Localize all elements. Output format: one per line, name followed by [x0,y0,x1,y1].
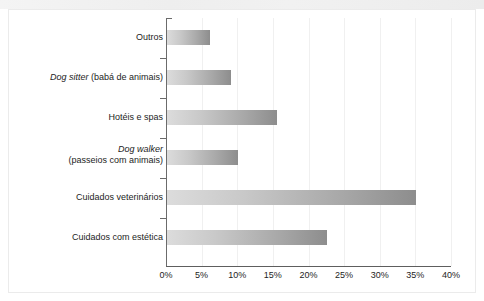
category-label: Cuidados veterinários [13,192,163,203]
category-label-plain-part: (babá de animais) [88,72,163,82]
bar-chart-plot-area: OutrosDog sitter (babá de animais)Hotéis… [0,0,484,301]
x-axis-tick-label: 20% [289,270,329,280]
gridline-10 [237,18,238,266]
category-label-plain-part: Hotéis e spas [108,112,163,122]
category-label: Cuidados com estética [13,232,163,243]
x-axis-tick-label: 0% [146,270,186,280]
value-axis-cap [166,18,172,19]
gridline-25 [344,18,345,266]
bar [167,190,416,205]
category-label-plain-part: Cuidados veterinários [76,192,163,202]
category-label-line: Cuidados veterinários [13,192,163,203]
category-label: Dog sitter (babá de animais) [13,72,163,83]
bar [167,150,238,165]
chart-page: OutrosDog sitter (babá de animais)Hotéis… [0,0,484,301]
category-label-plain-part: Cuidados com estética [72,232,163,242]
category-label-italic-part: Dog walker [118,144,163,154]
bar [167,230,327,245]
gridline-40 [451,18,452,266]
bar [167,30,210,45]
category-label: Hotéis e spas [13,112,163,123]
x-axis-tick-label: 15% [253,270,293,280]
category-label-line: Dog sitter (babá de animais) [13,72,163,83]
category-label-italic-part: Dog sitter [50,72,89,82]
x-axis-tick-label: 40% [431,270,471,280]
category-label-line: (passeios com animais) [13,155,163,166]
bar [167,110,277,125]
bar [167,70,231,85]
category-label-line: Cuidados com estética [13,232,163,243]
gridline-15 [273,18,274,266]
category-label: Dog walker(passeios com animais) [13,144,163,166]
x-axis-line [166,266,451,267]
x-axis-tick-label: 10% [217,270,257,280]
value-axis-line [166,18,167,266]
category-label-line: Hotéis e spas [13,112,163,123]
category-label-line: Dog walker [13,144,163,155]
category-label: Outros [13,32,163,43]
gridline-5 [202,18,203,266]
gridline-35 [415,18,416,266]
x-axis-tick-label: 5% [182,270,222,280]
category-label-line: Outros [13,32,163,43]
x-axis-tick-label: 25% [324,270,364,280]
x-axis-tick-label: 30% [360,270,400,280]
gridline-30 [380,18,381,266]
x-axis-tick-label: 35% [395,270,435,280]
gridline-20 [309,18,310,266]
category-label-plain-part: Outros [136,32,163,42]
